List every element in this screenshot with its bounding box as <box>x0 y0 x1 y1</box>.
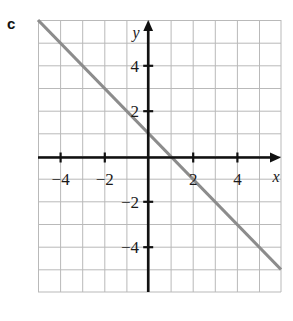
y-tick-label-2: 2 <box>131 102 140 121</box>
coordinate-plane: −4 −2 2 4 4 2 −2 −4 y x <box>0 0 293 321</box>
y-tick-label-neg4: −4 <box>121 238 140 257</box>
x-tick-label-neg4: −4 <box>52 170 71 189</box>
x-axis-label: x <box>271 168 279 185</box>
graph-figure: c <box>0 0 293 321</box>
x-tick-label-2: 2 <box>189 170 198 189</box>
y-axis-label: y <box>130 24 140 42</box>
y-tick-label-4: 4 <box>131 57 140 76</box>
y-tick-label-neg2: −2 <box>121 193 139 212</box>
x-tick-label-4: 4 <box>233 170 242 189</box>
x-tick-label-neg2: −2 <box>96 170 114 189</box>
